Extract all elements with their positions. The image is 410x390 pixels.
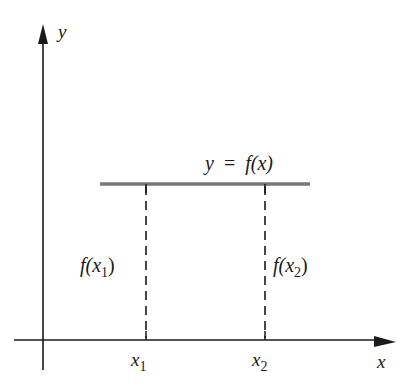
constant-function-diagram: y x x1 x2 y=f(x) f(x1) f(x2)	[0, 0, 410, 390]
y-axis-label: y	[56, 21, 67, 42]
x-axis-arrow-icon	[374, 336, 396, 347]
tick-label-x1: x1	[130, 349, 146, 374]
y-axis-arrow-icon	[38, 24, 48, 44]
tick-label-x2: x2	[251, 349, 267, 374]
value-label-f-x2: f(x2)	[273, 254, 308, 280]
function-label: y=f(x)	[203, 152, 273, 175]
value-label-f-x1: f(x1)	[80, 254, 115, 280]
x-axis-label: x	[376, 351, 386, 372]
